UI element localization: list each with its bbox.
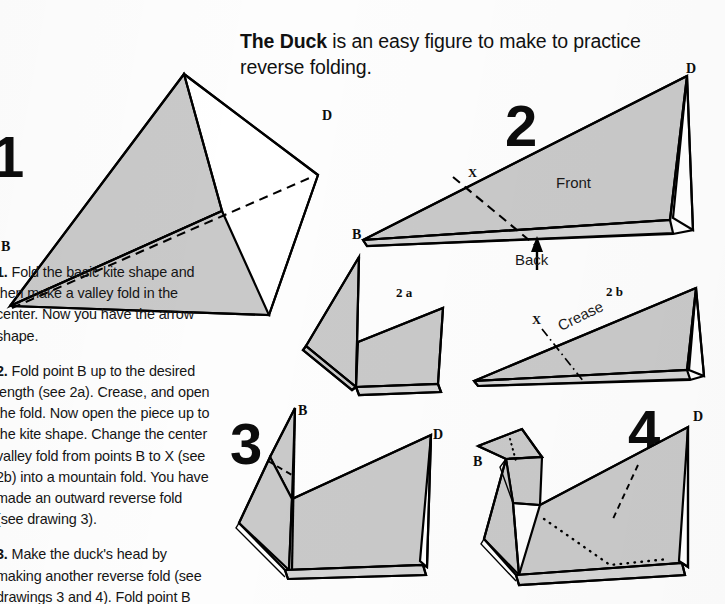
instructions-column: 1. Fold the basic kite shape and then ma… xyxy=(0,262,210,604)
figure-2-label-d: D xyxy=(686,62,696,76)
instruction-3-number: 3. xyxy=(0,546,8,562)
figure-2a-drawing xyxy=(290,252,490,392)
figure-1-label-b: B xyxy=(1,240,10,254)
origami-instruction-page: The Duck is an easy figure to make to pr… xyxy=(0,0,725,604)
fig4-body-panel xyxy=(519,427,688,575)
headline-bold-title: The Duck xyxy=(240,30,327,52)
figure-3-drawing xyxy=(215,395,455,604)
instruction-1-number: 1. xyxy=(0,264,8,280)
figure-4-label-b: B xyxy=(473,455,482,469)
figure-2-drawing xyxy=(355,68,715,268)
figure-4-label-d: D xyxy=(693,410,703,424)
figure-1-drawing xyxy=(0,58,340,278)
figure-2b-label-x: X xyxy=(532,314,541,327)
figure-1-label-d: D xyxy=(322,109,332,123)
instruction-2-number: 2. xyxy=(0,363,8,379)
instruction-step-3: 3. Make the duck's head by making anothe… xyxy=(0,544,210,604)
instruction-2-text: Fold point B up to the desired length (s… xyxy=(0,363,209,527)
instruction-step-1: 1. Fold the basic kite shape and then ma… xyxy=(0,262,210,347)
figure-3-label-b: B xyxy=(298,404,307,418)
instruction-step-2: 2. Fold point B up to the desired length… xyxy=(0,361,210,531)
fig3-right-body xyxy=(289,435,431,570)
figure-2-back-label: Back xyxy=(515,252,548,267)
instruction-3-text: Make the duck's head by making another r… xyxy=(0,546,202,604)
figure-4-drawing xyxy=(460,395,725,604)
figure-2-label-b: B xyxy=(352,228,361,242)
figure-2-front-label: Front xyxy=(556,175,591,190)
figure-3-label-d: D xyxy=(433,428,443,442)
fig2a-right-body xyxy=(356,308,443,387)
instruction-1-text: Fold the basic kite shape and then make … xyxy=(0,264,194,344)
figure-2-label-x: X xyxy=(468,167,477,180)
